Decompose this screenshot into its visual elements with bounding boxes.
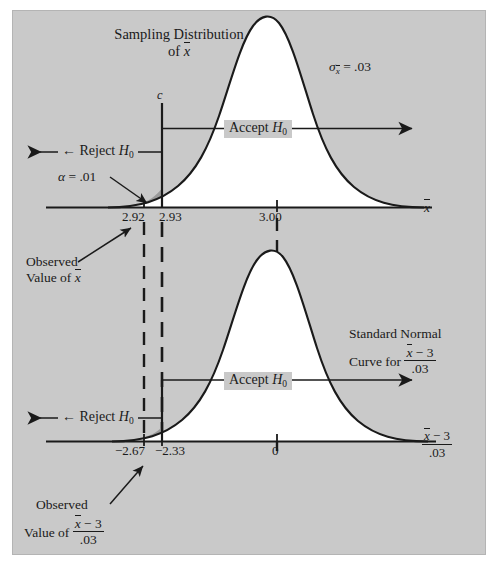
statistics-figure: Sampling Distribution of x σx = .03 c Ac… bbox=[0, 0, 496, 563]
sigma-symbol: σ bbox=[329, 59, 336, 74]
sigma-value: = .03 bbox=[340, 59, 371, 74]
observed-fraction: x − 3.03 bbox=[73, 516, 104, 548]
top-observed-pointer bbox=[78, 228, 131, 262]
top-title: Sampling Distribution of x bbox=[94, 26, 264, 60]
sigma-xbar-label: σx = .03 bbox=[329, 59, 371, 76]
bottom-observed-caption: Observed Value of x − 3.03 bbox=[36, 497, 104, 548]
bottom-observed-pointer bbox=[110, 466, 143, 504]
axis-fraction-denominator: .03 bbox=[422, 445, 452, 460]
observed-fraction-numerator: x − 3 bbox=[73, 516, 104, 532]
alpha-label: α = .01 bbox=[58, 169, 96, 185]
bottom-reject-label: ← Reject H0 bbox=[58, 409, 138, 427]
tick-label-zero: 0 bbox=[272, 443, 279, 458]
alpha-value: = .01 bbox=[65, 169, 96, 184]
tick-label-2-92: 2.92 bbox=[122, 209, 145, 224]
sigma-subscript: x bbox=[336, 66, 340, 77]
top-observed-caption: Observed Value of x bbox=[26, 254, 81, 286]
reject-arrow-glyph: ← bbox=[62, 143, 76, 158]
bottom-reject-arrow-glyph: ← bbox=[62, 409, 76, 424]
critical-value-label-c: c bbox=[157, 88, 163, 103]
caption-fraction-numerator: x − 3 bbox=[404, 345, 435, 361]
observed-x-bar-symbol: x bbox=[75, 270, 81, 286]
bottom-axis-label: x − 3.03 bbox=[422, 429, 452, 460]
observed-fraction-denominator: .03 bbox=[73, 532, 104, 548]
top-axis-label: x bbox=[424, 200, 430, 216]
bottom-accept-label: Accept H0 bbox=[224, 372, 292, 390]
alpha-pointer-arrow bbox=[110, 177, 147, 203]
top-accept-label: Accept H0 bbox=[224, 120, 292, 138]
caption-fraction: x − 3.03 bbox=[404, 345, 435, 377]
axis-fraction: x − 3.03 bbox=[422, 429, 452, 460]
top-reject-label: ← Reject H0 bbox=[58, 143, 138, 161]
axis-fraction-numerator: x − 3 bbox=[422, 429, 452, 445]
caption-fraction-denominator: .03 bbox=[404, 361, 435, 377]
tick-label-minus-2-33: −2.33 bbox=[155, 443, 185, 458]
tick-label-minus-2-67: −2.67 bbox=[115, 443, 145, 458]
x-bar-symbol: x bbox=[184, 43, 190, 60]
top-title-line1: Sampling Distribution bbox=[114, 26, 243, 42]
tick-label-3-00: 3.00 bbox=[259, 209, 282, 224]
top-title-line2: of x bbox=[168, 43, 190, 59]
bottom-curve-caption: Standard Normal Curve for x − 3.03 bbox=[349, 326, 442, 377]
tick-label-2-93: 2.93 bbox=[159, 209, 182, 224]
